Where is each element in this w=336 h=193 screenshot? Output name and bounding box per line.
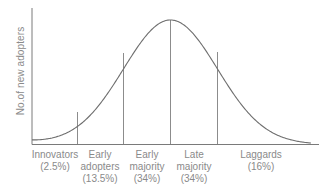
category-share: (34%) <box>129 173 164 185</box>
category-laggards: Laggards (16%) <box>240 149 282 173</box>
category-label-line: adopters <box>81 161 120 173</box>
category-label-line: Innovators <box>32 149 79 161</box>
adoption-curve <box>32 20 311 143</box>
category-share: (16%) <box>240 161 282 173</box>
category-label-line: Early <box>129 149 164 161</box>
category-label-line: majority <box>176 161 211 173</box>
category-share: (2.5%) <box>32 161 79 173</box>
category-label-line: Laggards <box>240 149 282 161</box>
y-axis-label: No.of new adopters <box>15 27 26 116</box>
category-early-adopters: Early adopters (13.5%) <box>81 149 120 185</box>
category-share: (13.5%) <box>81 173 120 185</box>
category-early-majority: Early majority (34%) <box>129 149 164 185</box>
category-label-line: majority <box>129 161 164 173</box>
category-share: (34%) <box>176 173 211 185</box>
category-label-line: Late <box>176 149 211 161</box>
category-late-majority: Late majority (34%) <box>176 149 211 185</box>
category-label-line: Early <box>81 149 120 161</box>
category-innovators: Innovators (2.5%) <box>32 149 79 173</box>
